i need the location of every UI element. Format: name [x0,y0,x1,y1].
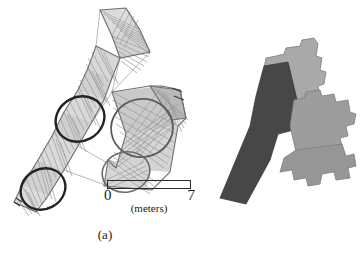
panel-a: 0 7 (meters) (a) [0,0,210,253]
region-light-mid [290,90,356,152]
panel-b: (b) [210,0,364,253]
scale-units-label: (meters) [107,203,191,214]
scale-bar-group: 0 7 (meters) [107,180,191,214]
region-dark-strip [220,62,298,204]
figure-root: 0 7 (meters) (a) [0,0,364,253]
region-light-lower [280,144,356,186]
scale-bar [107,180,191,189]
scale-label-max: 7 [188,188,196,203]
subcaption-a: (a) [85,228,125,241]
panel-b-drawing [210,0,364,253]
scale-label-min: 0 [104,188,112,203]
panel-a-drawing [0,0,210,253]
